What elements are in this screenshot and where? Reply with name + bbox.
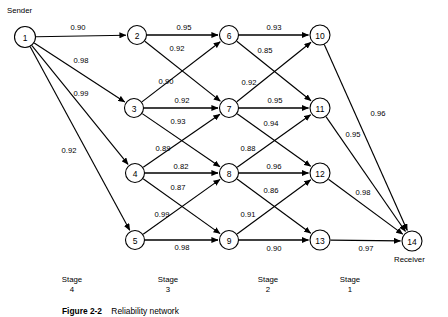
figure-caption: Figure 2-2 Reliability network bbox=[62, 306, 180, 316]
stage-label-3-name: Stage bbox=[158, 275, 178, 284]
node-7: 7 bbox=[220, 99, 239, 118]
edge-label-4-7: 0.89 bbox=[156, 144, 171, 153]
node-11: 11 bbox=[310, 98, 330, 118]
edge-label-3-6: 0.90 bbox=[159, 77, 174, 86]
node-2: 2 bbox=[128, 26, 147, 45]
node-label-9: 9 bbox=[227, 236, 232, 246]
node-label-1: 1 bbox=[23, 33, 28, 43]
node-5: 5 bbox=[126, 231, 145, 250]
node-label-13: 13 bbox=[315, 236, 325, 246]
edge-label-8-11: 0.88 bbox=[241, 144, 256, 153]
edge-label-10-14: 0.96 bbox=[371, 109, 386, 118]
node-12: 12 bbox=[310, 163, 330, 183]
sender-label: Sender bbox=[7, 6, 33, 15]
node-label-3: 3 bbox=[132, 104, 137, 114]
node-label-7: 7 bbox=[227, 104, 232, 114]
node-label-10: 10 bbox=[315, 31, 325, 41]
edge-label-13-14: 0.97 bbox=[359, 244, 374, 253]
node-14: 14 bbox=[402, 231, 422, 251]
node-label-6: 6 bbox=[227, 31, 232, 41]
edge-label-4-9: 0.87 bbox=[171, 183, 186, 192]
node-1: 1 bbox=[15, 27, 36, 48]
node-3: 3 bbox=[125, 99, 144, 118]
edge-7-to-10 bbox=[237, 42, 311, 102]
node-6: 6 bbox=[220, 26, 239, 45]
edge-11-to-14 bbox=[326, 117, 405, 232]
edge-label-6-10: 0.93 bbox=[267, 23, 282, 32]
edge-label-4-8: 0.82 bbox=[174, 162, 189, 171]
edge-13-to-14 bbox=[331, 240, 401, 241]
stage-label-4-number: 4 bbox=[70, 285, 75, 294]
edge-1-to-5 bbox=[30, 47, 130, 231]
node-9: 9 bbox=[220, 231, 239, 250]
stage-label-1-number: 1 bbox=[348, 285, 352, 294]
edge-label-7-10: 0.92 bbox=[242, 78, 257, 87]
node-label-11: 11 bbox=[316, 104, 325, 114]
node-label-4: 4 bbox=[133, 169, 138, 179]
edge-labels-layer: 0.900.980.990.920.950.920.900.920.930.89… bbox=[62, 23, 386, 253]
reliability-network-figure: 0.900.980.990.920.950.920.900.920.930.89… bbox=[0, 0, 448, 317]
edge-label-8-12: 0.96 bbox=[267, 162, 282, 171]
figure-caption-number: Figure 2-2 bbox=[62, 306, 102, 316]
edge-label-11-14: 0.95 bbox=[346, 130, 361, 139]
stage-label-2-number: 2 bbox=[266, 285, 270, 294]
edge-10-to-14 bbox=[324, 45, 407, 231]
receiver-label: Receiver bbox=[394, 255, 425, 264]
stage-label-3-number: 3 bbox=[166, 285, 170, 294]
node-label-5: 5 bbox=[133, 236, 138, 246]
figure-caption-title: Reliability network bbox=[111, 306, 179, 316]
edge-label-5-8: 0.99 bbox=[155, 210, 170, 219]
node-10: 10 bbox=[310, 25, 330, 45]
edge-label-1-4: 0.99 bbox=[74, 89, 89, 98]
node-8: 8 bbox=[220, 164, 239, 183]
stage-labels-layer: Stage4Stage3Stage2Stage1 bbox=[62, 275, 360, 294]
node-label-8: 8 bbox=[227, 169, 232, 179]
node-13: 13 bbox=[310, 230, 330, 250]
node-4: 4 bbox=[126, 164, 145, 183]
edge-label-7-12: 0.94 bbox=[264, 119, 279, 128]
edge-label-1-3: 0.98 bbox=[74, 56, 89, 65]
network-diagram-canvas: 0.900.980.990.920.950.920.900.920.930.89… bbox=[0, 0, 448, 317]
edge-label-2-7: 0.92 bbox=[170, 44, 185, 53]
edge-label-9-13: 0.90 bbox=[267, 244, 282, 253]
edge-label-3-7: 0.92 bbox=[175, 96, 190, 105]
edge-label-12-14: 0.98 bbox=[356, 188, 371, 197]
stage-label-2-name: Stage bbox=[258, 275, 278, 284]
edge-label-6-11: 0.85 bbox=[258, 46, 273, 55]
edge-label-1-5: 0.92 bbox=[62, 146, 77, 155]
edge-label-1-2: 0.90 bbox=[71, 23, 86, 32]
edge-label-9-12: 0.91 bbox=[241, 210, 256, 219]
edge-6-to-11 bbox=[237, 41, 311, 101]
edge-label-7-11: 0.95 bbox=[268, 96, 283, 105]
node-label-12: 12 bbox=[315, 169, 325, 179]
edge-label-5-9: 0.98 bbox=[175, 243, 190, 252]
stage-label-4-name: Stage bbox=[62, 275, 82, 284]
edge-label-2-6: 0.95 bbox=[177, 23, 192, 32]
edge-label-8-13: 0.86 bbox=[264, 186, 279, 195]
node-label-14: 14 bbox=[407, 237, 417, 247]
edge-label-3-8: 0.93 bbox=[171, 117, 186, 126]
node-label-2: 2 bbox=[135, 31, 140, 41]
edge-1-to-2 bbox=[36, 35, 126, 37]
stage-label-1-name: Stage bbox=[340, 275, 360, 284]
